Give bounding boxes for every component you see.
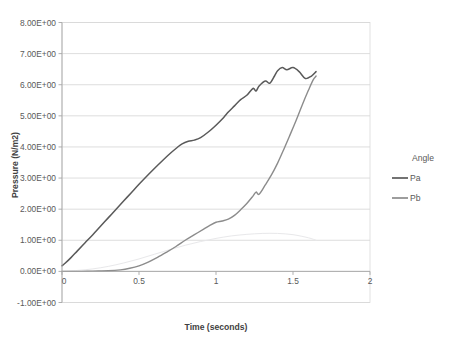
chart-canvas: -1.00E+000.00E+001.00E+002.00E+003.00E+0… — [0, 0, 453, 357]
plot-area-border — [62, 23, 370, 303]
y-tick-label: 2.00E+00 — [20, 204, 56, 214]
x-tick-label: 1.5 — [287, 276, 299, 286]
gridlines — [62, 23, 370, 303]
y-tick-label: 6.00E+00 — [20, 80, 56, 90]
x-axis-tick-labels: 00.511.52 — [62, 276, 373, 286]
data-series-group — [62, 68, 316, 272]
y-axis-tick-labels: -1.00E+000.00E+001.00E+002.00E+003.00E+0… — [17, 18, 56, 308]
y-tick-label: -1.00E+00 — [17, 298, 56, 308]
x-axis-title: Time (seconds) — [185, 322, 248, 332]
x-tick-label: 2 — [368, 276, 373, 286]
chart-legend: AnglePaPb — [392, 153, 434, 203]
axis-lines — [59, 23, 371, 303]
series-line-pa — [62, 68, 316, 266]
series-line-pb — [62, 76, 316, 271]
caption-text — [6, 348, 96, 356]
legend-label-angle: Angle — [412, 153, 434, 163]
y-tick-label: 4.00E+00 — [20, 142, 56, 152]
series-line-angle — [62, 233, 316, 271]
y-tick-label: 3.00E+00 — [20, 173, 56, 183]
y-tick-label: 0.00E+00 — [20, 266, 56, 276]
y-tick-label: 1.00E+00 — [20, 235, 56, 245]
chart-container: -1.00E+000.00E+001.00E+002.00E+003.00E+0… — [0, 0, 453, 357]
y-tick-label: 5.00E+00 — [20, 111, 56, 121]
legend-label-pb: Pb — [410, 193, 421, 203]
y-tick-label: 8.00E+00 — [20, 18, 56, 28]
x-tick-label: 0 — [62, 276, 67, 286]
x-tick-label: 1 — [214, 276, 219, 286]
legend-label-pa: Pa — [410, 173, 421, 183]
x-tick-label: 0.5 — [133, 276, 145, 286]
y-axis-title: Pressure (N/m2) — [10, 132, 20, 198]
y-tick-label: 7.00E+00 — [20, 49, 56, 59]
plot-border — [62, 23, 370, 303]
